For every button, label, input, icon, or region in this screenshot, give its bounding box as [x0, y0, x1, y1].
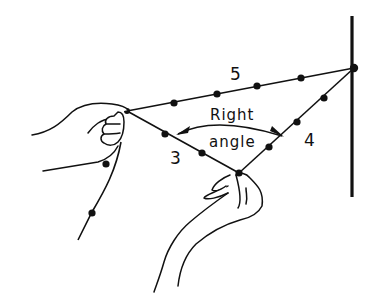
rope-triangle-diagram: 5 3 4 Right angle: [0, 0, 370, 298]
right-hand-icon: [154, 173, 262, 292]
label-angle: angle: [209, 133, 256, 151]
left-hand-icon: [32, 103, 128, 171]
label-right: Right: [210, 106, 255, 124]
label-side-3: 3: [170, 148, 181, 168]
hanging-rope: [78, 142, 121, 240]
label-side-4: 4: [304, 130, 315, 150]
label-side-5: 5: [230, 64, 241, 84]
